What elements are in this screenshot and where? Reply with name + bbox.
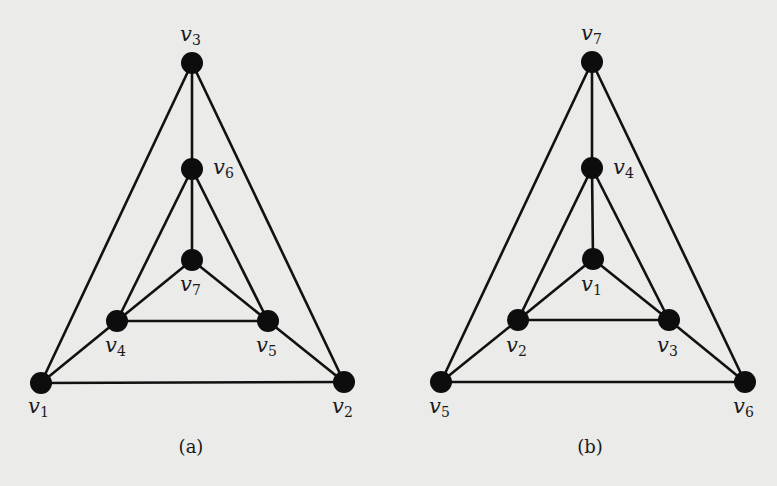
vertex-v5 [257, 310, 279, 332]
edges-a [41, 63, 344, 383]
edge-v4-v1 [592, 168, 593, 259]
vertex-v6 [181, 158, 203, 180]
vertex-v2 [333, 371, 355, 393]
edge-v3-v1 [593, 259, 669, 320]
vertex-label-v2: v2 [332, 394, 353, 420]
figure-canvas: v1v2v3v4v5v6v7 (a) v1v2v3v4v5v6v7 (b) [0, 0, 777, 486]
labels-a: v1v2v3v4v5v6v7 [28, 22, 353, 420]
vertex-label-v1: v1 [28, 394, 49, 420]
edge-v2-v5 [268, 321, 344, 382]
caption-a: (a) [179, 436, 204, 457]
edge-v3-v4 [592, 168, 669, 320]
graph-figure: v1v2v3v4v5v6v7 (a) v1v2v3v4v5v6v7 (b) [0, 0, 777, 486]
edges-b [441, 62, 745, 382]
vertex-v1 [30, 372, 52, 394]
vertex-v3 [658, 309, 680, 331]
vertex-v4 [581, 157, 603, 179]
vertex-label-v3: v3 [180, 22, 201, 48]
vertex-label-v4: v4 [105, 333, 126, 359]
vertex-v3 [181, 52, 203, 74]
vertex-label-v5: v5 [256, 333, 277, 359]
vertex-v7 [181, 249, 203, 271]
vertex-v2 [507, 309, 529, 331]
panel-b: v1v2v3v4v5v6v7 (b) [429, 21, 756, 457]
vertex-label-v7: v7 [581, 21, 602, 47]
vertex-v7 [581, 51, 603, 73]
vertex-label-v6: v6 [733, 394, 754, 420]
vertex-label-v7: v7 [180, 272, 201, 298]
vertex-label-v1: v1 [581, 272, 602, 298]
vertex-label-v2: v2 [506, 333, 527, 359]
edge-v5-v6 [192, 169, 268, 321]
caption-b: (b) [577, 436, 603, 457]
vertex-v6 [734, 371, 756, 393]
edge-v5-v7 [192, 260, 268, 321]
vertex-v1 [582, 248, 604, 270]
edge-v4-v6 [117, 169, 192, 321]
edge-v2-v4 [518, 168, 592, 320]
edge-v1-v2 [41, 382, 344, 383]
vertex-v4 [106, 310, 128, 332]
vertex-v5 [430, 371, 452, 393]
vertex-label-v3: v3 [657, 333, 678, 359]
vertex-label-v5: v5 [429, 394, 450, 420]
panel-a: v1v2v3v4v5v6v7 (a) [28, 22, 355, 457]
edge-v2-v3 [192, 63, 344, 382]
vertex-label-v6: v6 [213, 155, 234, 181]
vertex-label-v4: v4 [613, 155, 634, 181]
edge-v6-v3 [669, 320, 745, 382]
